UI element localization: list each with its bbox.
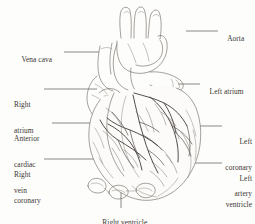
label-vena-cava: Vena cava bbox=[14, 47, 52, 73]
label-left-ventricle-line2: ventricle bbox=[192, 201, 252, 210]
label-left-ventricle: Left ventricle bbox=[192, 158, 252, 224]
label-anterior-cardiac-vein-line1: Anterior bbox=[14, 135, 39, 144]
label-aorta: Aorta bbox=[220, 26, 244, 52]
label-right-coronary-artery-line2: coronary bbox=[14, 197, 41, 206]
label-right-ventricle: Right ventricle bbox=[71, 210, 171, 224]
label-left-atrium: Left atrium bbox=[202, 79, 244, 105]
label-right-coronary-artery: Right coronary artery bbox=[14, 154, 41, 224]
label-left-atrium-line1: Left atrium bbox=[210, 87, 244, 96]
label-vena-cava-line1: Vena cava bbox=[21, 55, 52, 64]
label-right-ventricle-line1: Right ventricle bbox=[102, 218, 147, 224]
label-right-coronary-artery-line3: artery bbox=[14, 223, 41, 224]
figure-canvas: Vena cava Right atrium Anterior cardiac … bbox=[0, 0, 255, 224]
great-vessels bbox=[113, 7, 183, 92]
label-right-coronary-artery-line1: Right bbox=[14, 171, 41, 180]
label-right-atrium-line1: Right bbox=[14, 101, 34, 110]
label-left-ventricle-line1: Left bbox=[192, 175, 252, 184]
label-aorta-line1: Aorta bbox=[227, 34, 244, 43]
label-left-coronary-artery-line1: Left bbox=[192, 138, 252, 147]
